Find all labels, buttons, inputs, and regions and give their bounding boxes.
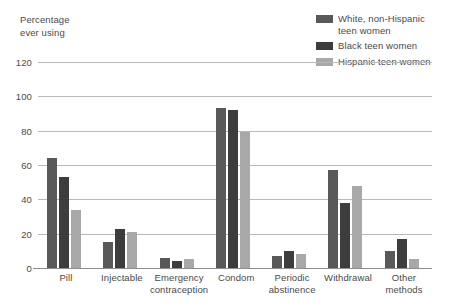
bar — [172, 261, 182, 268]
bar — [127, 232, 137, 268]
bar-group-bars — [376, 62, 432, 268]
bar — [409, 259, 419, 268]
y-axis-tick-label: 0 — [27, 263, 32, 274]
bar-group-bars — [207, 62, 263, 268]
x-axis-tick-label: Pill — [38, 272, 94, 296]
bar — [340, 203, 350, 268]
bar — [397, 239, 407, 268]
x-axis-tick-label: Periodic abstinence — [264, 272, 320, 296]
x-axis-labels: PillInjectableEmergency contraceptionCon… — [38, 272, 432, 296]
bar — [115, 229, 125, 268]
bar — [59, 177, 69, 268]
y-axis-tick-label: 60 — [21, 160, 32, 171]
plot-area: 120100806040200 — [38, 62, 432, 268]
bar-group-bars — [94, 62, 150, 268]
bar — [328, 170, 338, 268]
bar — [184, 259, 194, 268]
bar-group — [319, 62, 375, 268]
legend-swatch-icon — [316, 15, 333, 23]
bar — [240, 132, 250, 268]
y-axis-tick-label: 80 — [21, 125, 32, 136]
bar-group-bars — [151, 62, 207, 268]
bar-group — [151, 62, 207, 268]
bar-group — [38, 62, 94, 268]
legend-label: White, non-Hispanic teen women — [338, 13, 425, 37]
bar — [71, 210, 81, 268]
bar — [160, 258, 170, 268]
bar-group — [263, 62, 319, 268]
y-axis-title: Percentage ever using — [20, 14, 70, 39]
bar — [228, 110, 238, 268]
bar — [216, 108, 226, 268]
x-axis-tick-label: Other methods — [376, 272, 432, 296]
bar-group — [94, 62, 150, 268]
bar-group-bars — [38, 62, 94, 268]
bar-groups — [38, 62, 432, 268]
bar-group-bars — [263, 62, 319, 268]
bar — [296, 254, 306, 268]
x-axis-tick-label: Condom — [208, 272, 264, 296]
bar-chart: Percentage ever using White, non-Hispani… — [0, 0, 452, 306]
bar — [385, 251, 395, 268]
y-axis-tick-label: 120 — [16, 57, 32, 68]
y-axis-tick-label: 100 — [16, 91, 32, 102]
bar — [103, 242, 113, 268]
y-axis-tick-label: 40 — [21, 194, 32, 205]
y-axis-tick-label: 20 — [21, 228, 32, 239]
bar — [284, 251, 294, 268]
axis-baseline: 0 — [38, 268, 432, 269]
x-axis-tick-label: Emergency contraception — [150, 272, 208, 296]
legend-item-white-non-hispanic: White, non-Hispanic teen women — [316, 13, 452, 37]
y-axis-stub — [33, 268, 38, 269]
bar — [47, 158, 57, 268]
legend-swatch-icon — [316, 42, 333, 50]
x-axis-tick-label: Withdrawal — [320, 272, 376, 296]
legend-label: Black teen women — [338, 40, 417, 52]
bar — [352, 186, 362, 268]
bar-group — [376, 62, 432, 268]
bar-group — [207, 62, 263, 268]
x-axis-tick-label: Injectable — [94, 272, 150, 296]
legend-item-black: Black teen women — [316, 40, 452, 52]
bar — [272, 256, 282, 268]
bar-group-bars — [319, 62, 375, 268]
